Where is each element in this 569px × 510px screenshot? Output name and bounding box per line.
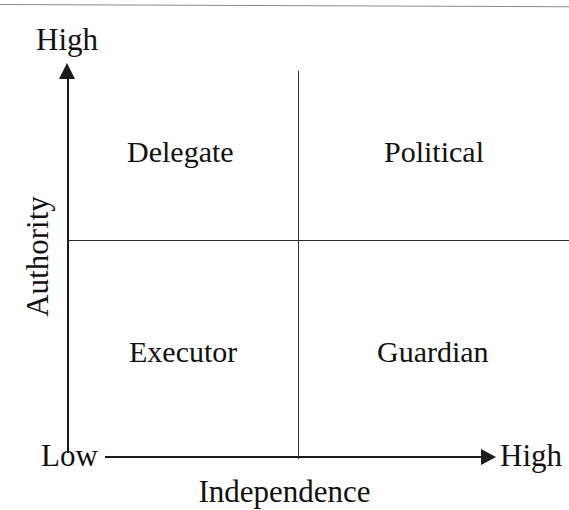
y-axis-high-label: High [36, 24, 98, 55]
quadrant-label-bottom-left: Executor [129, 337, 237, 367]
vertical-quadrant-divider [298, 71, 299, 459]
x-axis-line [105, 456, 483, 458]
quadrant-label-top-right: Political [384, 137, 484, 167]
quadrant-chart: High Low High Authority Independence Del… [0, 0, 569, 510]
y-axis-line [67, 74, 69, 453]
up-arrow-icon [59, 63, 75, 79]
quadrant-label-top-left: Delegate [127, 137, 234, 167]
x-axis-title: Independence [0, 476, 569, 507]
y-axis-title: Authority [22, 182, 53, 332]
right-arrow-icon [481, 449, 496, 465]
horizontal-quadrant-divider [67, 240, 569, 241]
x-axis-low-label: Low [41, 440, 98, 471]
x-axis-high-label: High [500, 440, 562, 471]
top-rule-divider [0, 4, 569, 7]
quadrant-label-bottom-right: Guardian [377, 337, 489, 367]
